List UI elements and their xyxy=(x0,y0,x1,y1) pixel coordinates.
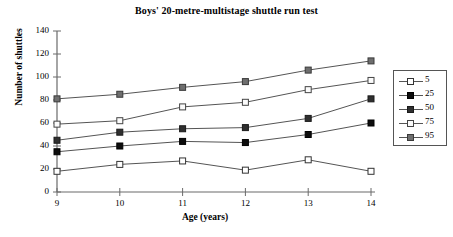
data-point-95-14 xyxy=(368,58,374,64)
legend-marker-icon xyxy=(398,88,424,101)
series-line-5 xyxy=(57,160,371,172)
chart-container: Boys' 20-metre-multistage shuttle run te… xyxy=(0,0,453,237)
legend-label: 95 xyxy=(425,130,434,140)
data-series-layer xyxy=(54,58,374,174)
data-point-50-11 xyxy=(180,126,186,132)
data-point-95-9 xyxy=(54,96,60,102)
data-point-75-11 xyxy=(180,104,186,110)
data-point-5-11 xyxy=(180,158,186,164)
data-point-95-10 xyxy=(117,91,123,97)
data-point-5-10 xyxy=(117,161,123,167)
legend-label: 50 xyxy=(425,102,434,112)
legend-item-95[interactable]: 95 xyxy=(397,130,445,143)
data-point-5-9 xyxy=(54,168,60,174)
legend-marker-icon xyxy=(398,74,424,87)
data-point-5-12 xyxy=(242,167,248,173)
legend-label: 75 xyxy=(425,116,434,126)
data-point-50-13 xyxy=(305,115,311,121)
series-25 xyxy=(54,120,374,155)
series-95 xyxy=(54,58,374,102)
data-point-75-9 xyxy=(54,121,60,127)
legend-item-75[interactable]: 75 xyxy=(397,116,445,129)
series-line-75 xyxy=(57,80,371,124)
data-point-50-9 xyxy=(54,137,60,143)
series-50 xyxy=(54,96,374,143)
data-point-75-14 xyxy=(368,77,374,83)
legend-item-5[interactable]: 5 xyxy=(397,74,445,87)
data-point-25-9 xyxy=(54,149,60,155)
data-point-25-13 xyxy=(305,132,311,138)
data-point-75-10 xyxy=(117,118,123,124)
data-point-5-13 xyxy=(305,157,311,163)
series-line-25 xyxy=(57,123,371,152)
series-5 xyxy=(54,157,374,175)
axes xyxy=(53,31,375,196)
data-point-50-12 xyxy=(242,125,248,131)
legend-marker-icon xyxy=(398,130,424,143)
legend: 525507595 xyxy=(393,70,447,146)
data-point-75-13 xyxy=(305,87,311,93)
data-point-50-14 xyxy=(368,96,374,102)
data-point-95-13 xyxy=(305,67,311,73)
legend-label: 5 xyxy=(425,74,430,84)
data-point-25-10 xyxy=(117,143,123,149)
legend-marker-icon xyxy=(398,116,424,129)
legend-marker-icon xyxy=(398,102,424,115)
series-line-95 xyxy=(57,61,371,99)
legend-label: 25 xyxy=(425,88,434,98)
data-point-25-12 xyxy=(242,140,248,146)
data-point-5-14 xyxy=(368,168,374,174)
data-point-75-12 xyxy=(242,99,248,105)
plot-area xyxy=(0,0,453,237)
data-point-25-14 xyxy=(368,120,374,126)
legend-item-50[interactable]: 50 xyxy=(397,102,445,115)
data-point-25-11 xyxy=(180,138,186,144)
data-point-95-11 xyxy=(180,84,186,90)
data-point-95-12 xyxy=(242,79,248,85)
data-point-50-10 xyxy=(117,129,123,135)
legend-item-25[interactable]: 25 xyxy=(397,88,445,101)
